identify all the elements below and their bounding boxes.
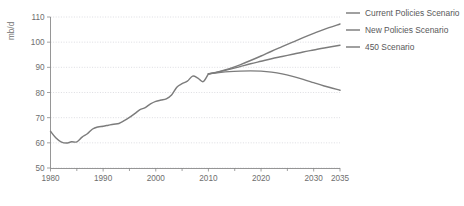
series-line-450-scenario [208,71,340,90]
x-tick-group: 1980199020002010202020302035 [41,168,349,183]
y-tick-label-70: 70 [35,114,45,123]
x-tick-label-1980: 1980 [41,174,60,183]
x-tick-label-2020: 2020 [252,174,271,183]
y-tick-label-60: 60 [35,139,45,148]
x-tick-label-1990: 1990 [94,174,113,183]
gridlines [51,17,341,168]
y-tick-label-90: 90 [35,63,45,72]
x-tick-label-2010: 2010 [199,174,218,183]
y-tick-group: 5060708090100110 [31,13,51,173]
y-axis: 5060708090100110 [31,13,51,173]
x-tick-label-2030: 2030 [305,174,324,183]
y-tick-label-110: 110 [31,13,44,22]
chart-svg: 5060708090100110 19801990200020102020203… [0,0,464,206]
chart-figure: 5060708090100110 19801990200020102020203… [0,0,464,206]
x-tick-label-2000: 2000 [147,174,166,183]
legend-label-1: New Policies Scenario [365,25,449,35]
y-tick-label-50: 50 [35,164,45,173]
y-tick-label-100: 100 [31,38,45,47]
y-tick-label-80: 80 [35,89,45,98]
x-axis: 1980199020002010202020302035 [41,168,349,183]
y-axis-title: mb/d [7,21,16,40]
x-tick-label-2035: 2035 [331,174,350,183]
legend-label-2: 450 Scenario [365,42,415,52]
chart-legend: Current Policies ScenarioNew Policies Sc… [346,8,460,52]
legend-label-0: Current Policies Scenario [365,8,460,18]
series-line-historical [51,74,209,143]
series-group [51,24,341,143]
